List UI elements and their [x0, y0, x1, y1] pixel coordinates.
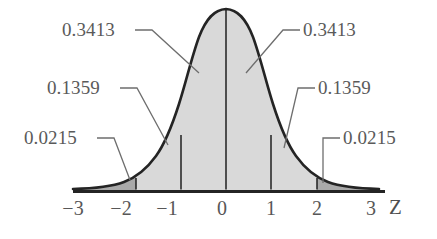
region-neg2-neg1	[136, 0, 181, 191]
annotation-left-3413: 0.3413	[62, 19, 115, 41]
annotation-right-0215: 0.0215	[343, 127, 396, 149]
tick-label-pos3: 3	[356, 197, 386, 220]
tick-label-pos2: 2	[302, 197, 332, 220]
leader-left-1359	[120, 88, 168, 145]
leader-right-0215	[323, 138, 340, 183]
annotation-right-3413: 0.3413	[303, 19, 356, 41]
leader-right-1359	[284, 88, 315, 148]
annotation-left-1359: 0.1359	[47, 77, 100, 99]
normal-distribution-figure: 0.3413 0.3413 0.1359 0.1359 0.0215 0.021…	[0, 0, 437, 239]
tick-label-zero: 0	[207, 197, 237, 220]
tick-label-neg2: −2	[106, 197, 136, 220]
annotation-right-1359: 0.1359	[318, 77, 371, 99]
tick-label-neg3: −3	[58, 197, 88, 220]
x-axis-label-z: Z	[389, 195, 402, 220]
tick-label-pos1: 1	[256, 197, 286, 220]
leader-left-0215	[97, 138, 130, 180]
tick-label-neg1: −1	[152, 197, 182, 220]
annotation-left-0215: 0.0215	[24, 127, 77, 149]
